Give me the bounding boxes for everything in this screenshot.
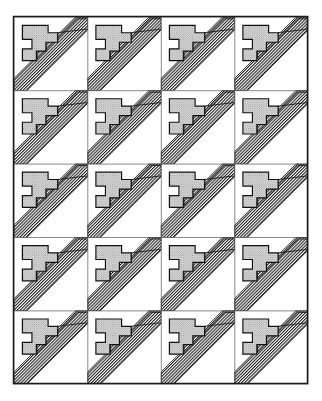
tile-r2c1 [14,91,88,164]
tile-r2c2 [88,91,162,164]
tile-grid [14,17,308,384]
tile-r3c3 [161,164,235,237]
tile-r5c1 [14,311,88,384]
tiling-pattern-svg: Stepped F-Pentomino Tiling Pattern Recta… [0,0,322,401]
figure-root: Stepped F-Pentomino Tiling Pattern Recta… [0,0,322,401]
tile-r1c4 [235,17,309,90]
tile-r3c4 [235,164,309,237]
tile-r5c4 [235,311,309,384]
tile-r2c4 [235,91,309,164]
tile-r2c3 [161,91,235,164]
tile-r1c2 [88,17,162,90]
tile-r4c4 [235,238,309,311]
tile-r5c3 [161,311,235,384]
tile-r1c3 [161,17,235,90]
tile-r4c2 [88,238,162,311]
tile-r3c2 [88,164,162,237]
tile-r3c1 [14,164,88,237]
tile-r4c1 [14,238,88,311]
tile-r1c1 [14,17,88,90]
tile-r5c2 [88,311,162,384]
tile-r4c3 [161,238,235,311]
